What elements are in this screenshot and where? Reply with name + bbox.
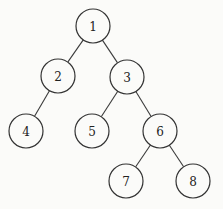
edge-1-2 bbox=[68, 40, 84, 62]
edge-3-6 bbox=[136, 92, 151, 117]
tree-node-6: 6 bbox=[143, 114, 177, 148]
tree-node-2: 2 bbox=[41, 59, 75, 93]
edge-2-4 bbox=[35, 91, 50, 117]
node-label: 5 bbox=[88, 125, 96, 139]
node-label: 6 bbox=[156, 125, 164, 139]
node-label: 7 bbox=[122, 175, 130, 189]
node-label: 3 bbox=[123, 71, 131, 85]
node-label: 2 bbox=[54, 70, 62, 84]
node-label: 8 bbox=[189, 175, 197, 189]
edge-3-5 bbox=[101, 91, 118, 116]
tree-node-5: 5 bbox=[75, 114, 109, 148]
tree-node-1: 1 bbox=[76, 9, 110, 43]
tree-svg: 12345678 bbox=[0, 0, 223, 209]
tree-node-7: 7 bbox=[109, 164, 143, 198]
tree-node-3: 3 bbox=[110, 60, 144, 94]
node-label: 1 bbox=[89, 20, 97, 34]
edge-6-7 bbox=[136, 145, 151, 167]
tree-node-4: 4 bbox=[9, 114, 43, 148]
node-label: 4 bbox=[22, 125, 30, 139]
tree-node-8: 8 bbox=[176, 164, 210, 198]
edge-6-8 bbox=[169, 145, 183, 167]
tree-diagram: 12345678 bbox=[0, 0, 223, 209]
edge-1-3 bbox=[102, 40, 117, 63]
